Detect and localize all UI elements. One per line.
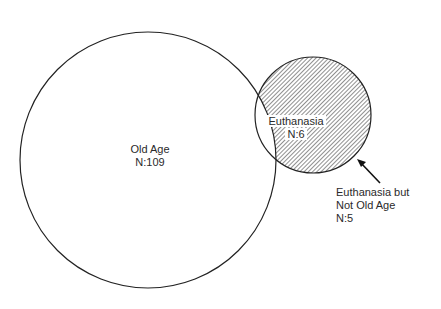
euthanasia-count: N:6 <box>285 128 306 140</box>
arrow-icon <box>357 159 380 183</box>
venn-diagram <box>0 0 441 309</box>
euthanasia-label: Euthanasia N:6 <box>263 115 329 141</box>
annotation-line-1: Euthanasia but <box>336 186 409 199</box>
old-age-count: N:109 <box>115 156 185 169</box>
annotation-line-2: Not Old Age <box>336 199 409 212</box>
annotation-label: Euthanasia but Not Old Age N:5 <box>336 186 409 225</box>
old-age-name: Old Age <box>115 143 185 156</box>
old-age-label: Old Age N:109 <box>115 143 185 169</box>
annotation-line-3: N:5 <box>336 212 409 225</box>
euthanasia-name: Euthanasia <box>266 115 325 127</box>
